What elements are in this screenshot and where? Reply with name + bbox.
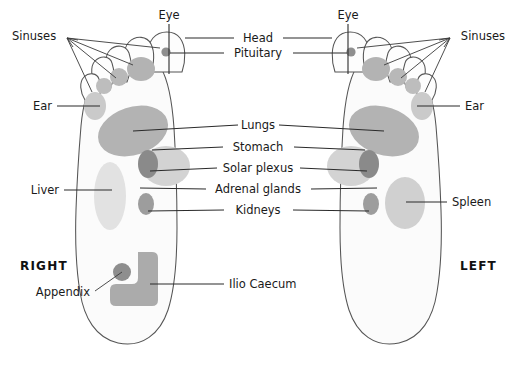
zone-spleen-left-foot	[385, 177, 425, 229]
leader-sinuses-left-d	[425, 38, 450, 92]
label-side-right: RIGHT	[20, 259, 68, 273]
zone-eye-left-foot	[362, 57, 390, 81]
label-ear-right: Ear	[33, 99, 52, 113]
label-eye-right: Eye	[158, 8, 179, 22]
reflexology-chart: Sinuses Sinuses Eye Eye Head Pituitary E…	[0, 0, 517, 388]
label-ilio-caecum: Ilio Caecum	[229, 277, 296, 291]
label-eye-left: Eye	[337, 8, 358, 22]
zone-solar-plexus-right-foot	[138, 150, 158, 178]
label-sinuses-right: Sinuses	[12, 29, 56, 43]
zone-kidneys-right-foot	[138, 193, 154, 215]
zone-sinuses-toe3-left	[389, 68, 407, 86]
label-adrenal-glands: Adrenal glands	[215, 182, 301, 196]
zone-sinuses-toe3-right	[110, 68, 128, 86]
leader-sinuses-right-d	[67, 38, 92, 92]
label-appendix: Appendix	[36, 285, 90, 299]
label-spleen: Spleen	[452, 195, 491, 209]
zone-solar-plexus-left-foot	[359, 150, 379, 178]
label-head: Head	[243, 31, 273, 45]
label-sinuses-left: Sinuses	[461, 29, 505, 43]
label-liver: Liver	[31, 183, 59, 197]
zone-liver-right-foot	[94, 162, 126, 230]
label-side-left: LEFT	[460, 259, 497, 273]
label-solar-plexus: Solar plexus	[223, 161, 293, 175]
zone-kidneys-left-foot	[363, 193, 379, 215]
label-kidneys: Kidneys	[235, 203, 280, 217]
label-ear-left: Ear	[465, 99, 484, 113]
zone-sinuses-toe4-right	[96, 78, 112, 94]
foot-reflexology-diagram: Sinuses Sinuses Eye Eye Head Pituitary E…	[0, 0, 517, 388]
label-stomach: Stomach	[233, 140, 284, 154]
label-pituitary: Pituitary	[234, 46, 282, 60]
label-lungs: Lungs	[241, 118, 275, 132]
zone-eye-right-foot	[127, 57, 155, 81]
zone-sinuses-toe4-left	[405, 78, 421, 94]
